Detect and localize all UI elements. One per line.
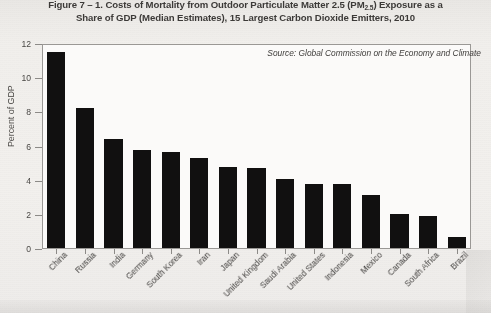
bar [190,158,208,248]
bar [219,167,237,248]
figure-title: Figure 7 – 1. Costs of Mortality from Ou… [0,0,491,25]
bar-chart: Source: Global Commission on the Economy… [0,26,491,313]
y-tick-mark [35,112,42,113]
y-tick-label: 0 [26,244,31,254]
y-tick-mark [35,249,42,250]
y-tick-label: 6 [26,142,31,152]
bar [305,184,323,248]
y-tick-mark [35,147,42,148]
bar [448,237,466,248]
bar [104,139,122,248]
figure-title-line-1-pre: Figure 7 – 1. Costs of Mortality from Ou… [48,0,364,10]
y-tick-mark [35,78,42,79]
bar [362,195,380,248]
y-tick-label: 10 [21,73,31,83]
bar [162,152,180,248]
bar [419,216,437,248]
bar [390,214,408,248]
y-tick-label: 2 [26,210,31,220]
bar [333,184,351,248]
bar [276,179,294,248]
y-axis-title: Percent of GDP [6,85,16,147]
bar-series [43,45,470,248]
y-tick-mark [35,44,42,45]
figure-title-line-1: Figure 7 – 1. Costs of Mortality from Ou… [0,0,491,12]
bar [76,108,94,248]
figure-title-line-1-post: ) Exposure as a [373,0,442,10]
plot-area: 024681012 [42,44,471,249]
y-tick-label: 12 [21,39,31,49]
figure-title-line-2: Share of GDP (Median Estimates), 15 Larg… [0,12,491,24]
y-tick-mark [35,181,42,182]
y-tick-label: 8 [26,107,31,117]
bar [47,52,65,248]
y-tick-label: 4 [26,176,31,186]
bar [133,150,151,248]
x-axis-labels: ChinaRussiaIndiaGermanySouth KoreaIranJa… [42,250,471,313]
pm-subscript: 2.5 [365,4,374,11]
source-annotation: Source: Global Commission on the Economy… [267,48,481,58]
bar [247,168,265,248]
y-tick-mark [35,215,42,216]
